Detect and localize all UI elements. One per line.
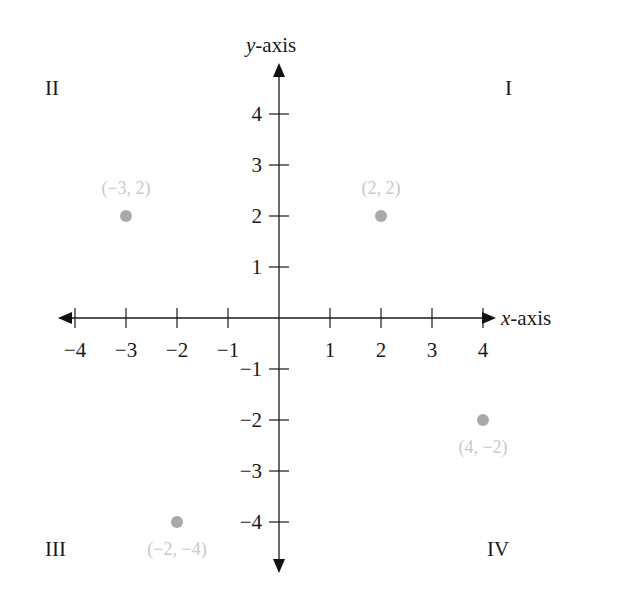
y-tick-label: −1 xyxy=(240,357,262,381)
data-point: (−2, −4) xyxy=(147,516,206,560)
data-point: (4, −2) xyxy=(458,414,507,458)
y-axis-title: y-axis xyxy=(244,33,296,57)
point-label: (2, 2) xyxy=(362,178,401,199)
x-tick-label: −4 xyxy=(64,338,87,362)
quadrant-label-iv: IV xyxy=(487,537,509,561)
x-axis-left-arrow-icon xyxy=(58,312,72,324)
coordinate-plane: −4−3−2−11234 x-axis −4−3−2−11234 y-axis … xyxy=(0,0,629,600)
y-axis-down-arrow-icon xyxy=(273,559,285,573)
quadrant-label-iii: III xyxy=(45,537,66,561)
y-axis-up-arrow-icon xyxy=(273,63,285,77)
y-tick-label: −2 xyxy=(240,408,262,432)
quadrant-label-ii: II xyxy=(45,76,59,100)
y-tick-label: 4 xyxy=(252,102,263,126)
x-tick-label: 2 xyxy=(376,338,387,362)
quadrant-label-i: I xyxy=(505,76,512,100)
x-axis-right-arrow-icon xyxy=(482,312,496,324)
y-axis: −4−3−2−11234 y-axis xyxy=(240,33,297,573)
point-marker xyxy=(477,414,489,426)
x-ticks: −4−3−2−11234 xyxy=(64,308,489,362)
data-point: (2, 2) xyxy=(362,178,401,222)
y-tick-label: −4 xyxy=(240,510,263,534)
data-points: (−3, 2)(2, 2)(4, −2)(−2, −4) xyxy=(101,178,507,560)
x-tick-label: −2 xyxy=(166,338,188,362)
x-tick-label: 4 xyxy=(478,338,489,362)
x-tick-label: 1 xyxy=(325,338,336,362)
point-label: (4, −2) xyxy=(458,437,507,458)
y-tick-label: 3 xyxy=(252,153,263,177)
point-label: (−2, −4) xyxy=(147,539,206,560)
y-tick-label: 1 xyxy=(252,255,263,279)
point-marker xyxy=(171,516,183,528)
data-point: (−3, 2) xyxy=(101,178,150,222)
point-label: (−3, 2) xyxy=(101,178,150,199)
point-marker xyxy=(120,210,132,222)
y-tick-label: 2 xyxy=(252,204,263,228)
y-tick-label: −3 xyxy=(240,459,262,483)
x-axis: −4−3−2−11234 x-axis xyxy=(58,306,551,362)
x-tick-label: −1 xyxy=(217,338,239,362)
x-tick-label: 3 xyxy=(427,338,438,362)
x-axis-title: x-axis xyxy=(500,306,551,330)
point-marker xyxy=(375,210,387,222)
x-tick-label: −3 xyxy=(115,338,137,362)
